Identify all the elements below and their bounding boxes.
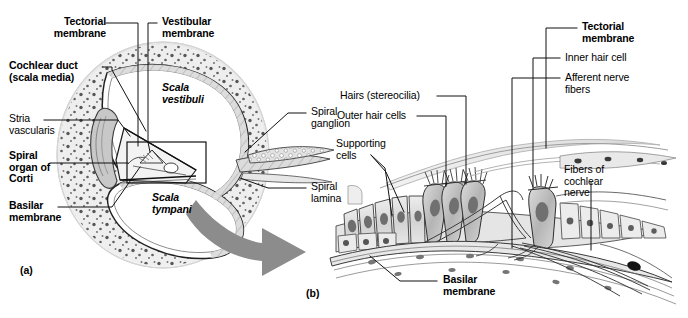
panel-b-id: (b) [306, 287, 319, 299]
panel-a-id: (a) [20, 264, 33, 276]
label-tectorial-membrane-a: Tectorial membrane [46, 16, 106, 39]
hensen-cells-group [560, 203, 666, 239]
label-hairs-stereocilia: Hairs (stereocilia) [340, 90, 438, 102]
label-scala-vestibuli: Scala vestibuli [162, 82, 224, 105]
label-vestibular-membrane-a: Vestibular membrane [162, 16, 232, 39]
label-basilar-membrane-a: Basilar membrane [9, 200, 79, 223]
label-afferent-nerve-fibers: Afferent nerve fibers [565, 72, 651, 95]
label-stria-vascularis: Stria vascularis [9, 113, 69, 136]
label-fibers-of-cochlear-nerve: Fibers of cochlear nerve [564, 164, 626, 199]
label-tectorial-membrane-b: Tectorial membrane [582, 21, 662, 44]
outer-hair-cells-group [423, 167, 487, 245]
label-scala-tympani: Scala tympani [152, 192, 214, 215]
label-spiral-organ-of-corti: Spiral organ of Corti [9, 150, 64, 185]
figure-canvas: Tectorial membrane Vestibular membrane C… [0, 0, 688, 318]
label-cochlear-duct: Cochlear duct (scala media) [9, 60, 105, 83]
label-outer-hair-cells: Outer hair cells [337, 110, 419, 122]
label-inner-hair-cell: Inner hair cell [565, 52, 655, 64]
label-supporting-cells: Supporting cells [336, 138, 398, 161]
label-basilar-membrane-b: Basilar membrane [443, 274, 513, 297]
label-spiral-lamina: Spiral lamina [311, 181, 361, 204]
